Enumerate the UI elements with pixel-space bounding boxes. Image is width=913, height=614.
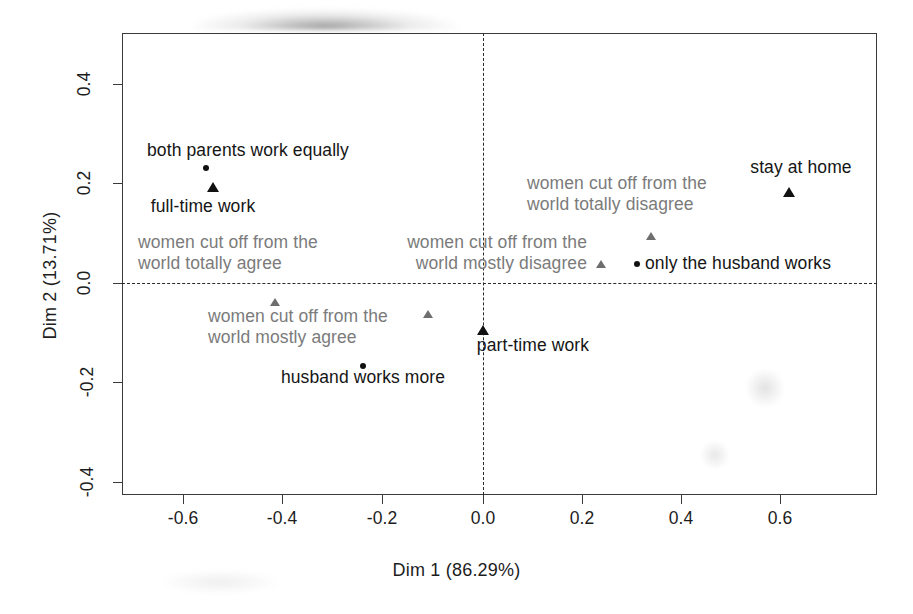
label-women-cut-off-totally-disagree-line2: world totally disagree [527, 194, 694, 215]
y-axis-tick [113, 183, 122, 184]
x-axis-tick [681, 495, 682, 504]
label-women-cut-off-mostly-agree-line1: women cut off from the [208, 306, 388, 327]
x-tick-label: -0.2 [367, 508, 398, 529]
x-tick-label: 0.2 [570, 508, 595, 529]
y-tick-label: -0.2 [77, 367, 98, 398]
x-axis-tick [483, 495, 484, 504]
y-axis-tick [113, 382, 122, 383]
x-axis-tick [780, 495, 781, 504]
scan-smudge-top [190, 8, 460, 30]
x-axis-title: Dim 1 (86.29%) [0, 560, 913, 581]
x-tick-label: 0.0 [471, 508, 496, 529]
label-women-cut-off-mostly-disagree-line1: women cut off from the [407, 232, 587, 253]
x-tick-label: -0.4 [267, 508, 298, 529]
y-axis-tick [113, 283, 122, 284]
label-women-cut-off-mostly-agree-line2: world mostly agree [208, 327, 357, 348]
chart-canvas: -0.6 -0.4 -0.2 0.0 0.2 0.4 0.6 0.4 0.2 0… [0, 0, 913, 614]
label-women-cut-off-totally-agree-line1: women cut off from the [138, 232, 318, 253]
horizontal-reference-line [122, 283, 877, 284]
point-part-time-work[interactable] [477, 325, 489, 335]
y-axis-title: Dim 2 (13.71%) [40, 146, 61, 406]
x-tick-label: 0.4 [669, 508, 694, 529]
label-stay-at-home: stay at home [750, 157, 851, 178]
label-women-cut-off-totally-disagree-line1: women cut off from the [527, 173, 707, 194]
y-tick-label: 0.4 [74, 72, 95, 97]
x-axis-tick [282, 495, 283, 504]
point-women-cut-off-totally-agree[interactable] [270, 298, 280, 306]
label-full-time-work: full-time work [151, 196, 255, 217]
label-both-parents-work-equally: both parents work equally [147, 140, 349, 161]
point-both-parents-work-equally[interactable] [203, 165, 209, 171]
label-part-time-work: part-time work [477, 335, 589, 356]
x-axis-tick [582, 495, 583, 504]
y-tick-label: 0.0 [74, 271, 95, 296]
label-women-cut-off-mostly-disagree-line2: world mostly disagree [416, 253, 587, 274]
y-tick-label: -0.4 [77, 467, 98, 498]
y-axis-tick [113, 84, 122, 85]
label-only-the-husband-works: only the husband works [645, 253, 831, 274]
point-full-time-work[interactable] [207, 182, 219, 192]
y-tick-label: 0.2 [74, 171, 95, 196]
x-axis-tick [382, 495, 383, 504]
x-tick-label: 0.6 [768, 508, 793, 529]
point-only-the-husband-works[interactable] [634, 261, 640, 267]
y-axis-tick [113, 482, 122, 483]
point-women-cut-off-mostly-disagree[interactable] [596, 260, 606, 268]
point-women-cut-off-totally-disagree[interactable] [646, 232, 656, 240]
point-stay-at-home[interactable] [783, 187, 795, 197]
x-tick-label: -0.6 [168, 508, 199, 529]
point-women-cut-off-mostly-agree[interactable] [423, 310, 433, 318]
label-husband-works-more: husband works more [281, 367, 445, 388]
label-women-cut-off-totally-agree-line2: world totally agree [138, 253, 282, 274]
x-axis-tick [183, 495, 184, 504]
